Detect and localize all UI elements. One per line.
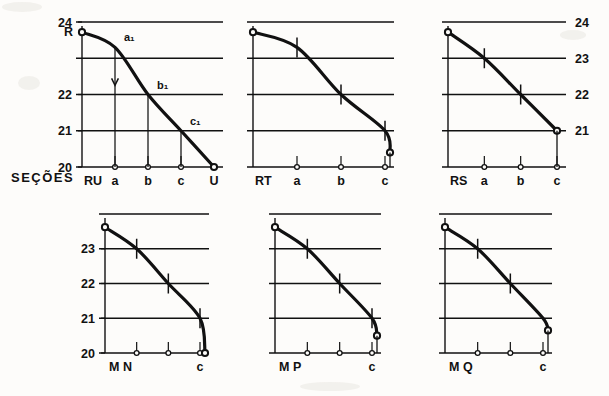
data-curve — [105, 227, 205, 353]
chart-panel-panel-rt-c: RTabc — [247, 22, 394, 188]
baseline-point — [295, 165, 300, 170]
y-tick-label-22: 22 — [575, 88, 589, 102]
baseline-point — [508, 351, 513, 356]
figure-canvas: SEÇÕES 24222120RUabcURa₁b₁c₁RTabc2423222… — [0, 0, 609, 396]
curve-endpoint-marker — [272, 224, 278, 230]
curve-endpoint-marker — [79, 29, 85, 35]
x-category-label-c: c — [369, 360, 376, 374]
curve-annotation-1: b₁ — [157, 79, 169, 91]
axis-group-label: SEÇÕES — [11, 170, 74, 185]
baseline-point — [518, 165, 523, 170]
y-tick-label-21: 21 — [58, 124, 72, 138]
x-category-label-a: a — [481, 174, 489, 188]
x-category-label-b: b — [337, 174, 345, 188]
curve-endpoint-marker — [202, 350, 208, 356]
baseline-point — [383, 165, 388, 170]
chart-panel-panel-ru-u: 24222120RUabcURa₁b₁c₁ — [58, 16, 223, 189]
x-category-label-M-Q: M Q — [449, 360, 473, 374]
y-tick-label-23: 23 — [575, 52, 589, 66]
y-tick-label-22: 22 — [58, 88, 72, 102]
baseline-point — [134, 351, 139, 356]
curve-endpoint-marker — [102, 224, 108, 230]
x-category-label-c: c — [554, 174, 561, 188]
x-category-label-a: a — [294, 174, 302, 188]
curve-endpoint-marker — [442, 224, 448, 230]
baseline-point — [305, 351, 310, 356]
plot-surface: 24222120RUabcURa₁b₁c₁RTabc24232221RSabc2… — [0, 0, 609, 396]
y-tick-label-21: 21 — [575, 124, 589, 138]
chart-panel-panel-mn-c: 23222120M Nc — [81, 214, 209, 374]
baseline-point — [370, 351, 375, 356]
y-tick-label-23: 23 — [81, 242, 95, 256]
baseline-point — [166, 351, 171, 356]
x-category-label-c: c — [178, 174, 185, 188]
x-category-label-b: b — [517, 174, 525, 188]
curve-annotation-2: c₁ — [190, 115, 201, 127]
y-tick-label-22: 22 — [81, 277, 95, 291]
baseline-point — [482, 165, 487, 170]
chart-panel-panel-mq-c: M Qc — [439, 214, 552, 374]
x-category-label-c: c — [197, 360, 204, 374]
x-category-label-c: c — [382, 174, 389, 188]
x-category-label-RS: RS — [450, 174, 467, 188]
baseline-point — [475, 351, 480, 356]
x-category-label-a: a — [112, 174, 120, 188]
x-category-label-RT: RT — [255, 174, 272, 188]
x-category-label-b: b — [144, 174, 152, 188]
data-curve — [275, 227, 377, 335]
data-curve — [448, 32, 557, 131]
x-category-label-U: U — [209, 174, 218, 188]
x-category-label-M-N: M N — [109, 360, 132, 374]
chart-panel-panel-mp-c: M Pc — [269, 214, 381, 374]
data-curve — [445, 227, 548, 330]
y-tick-label-24: 24 — [575, 16, 589, 30]
y-tick-label-21: 21 — [81, 312, 95, 326]
baseline-point — [337, 351, 342, 356]
x-category-label-c: c — [540, 360, 547, 374]
chart-panel-panel-rs-c: 24232221RSabc — [442, 16, 589, 189]
curve-endpoint-marker — [250, 29, 256, 35]
baseline-point — [541, 351, 546, 356]
x-category-label-M-P: M P — [279, 360, 301, 374]
data-curve — [253, 32, 390, 152]
y-tick-label-20: 20 — [81, 347, 95, 361]
origin-label: R — [64, 25, 73, 39]
curve-endpoint-marker — [445, 29, 451, 35]
x-category-label-RU: RU — [84, 174, 102, 188]
curve-endpoint-marker — [211, 164, 217, 170]
baseline-point — [339, 165, 344, 170]
curve-annotation-0: a₁ — [124, 31, 135, 43]
